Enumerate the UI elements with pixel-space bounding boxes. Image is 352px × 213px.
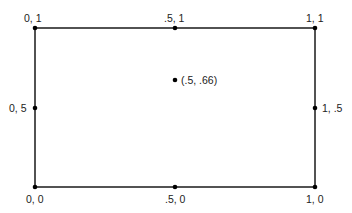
point-center [173, 78, 178, 83]
point-top-middle [173, 26, 178, 31]
point-top-left [33, 26, 38, 31]
unit-rectangle [35, 28, 315, 187]
label-top-left: 0, 1 [24, 12, 42, 24]
label-top-middle: .5, 1 [164, 12, 184, 24]
normalized-coordinate-diagram: 0, 1 .5, 1 1, 1 0, 5 (.5, .66) 1, .5 0, … [0, 0, 352, 213]
label-bottom-middle: .5, 0 [165, 193, 185, 205]
point-bottom-right [313, 185, 318, 190]
point-middle-left [33, 106, 38, 111]
point-top-right [313, 26, 318, 31]
label-middle-right: 1, .5 [322, 102, 342, 114]
label-top-right: 1, 1 [306, 12, 324, 24]
label-bottom-right: 1, 0 [306, 193, 324, 205]
label-middle-left: 0, 5 [9, 102, 27, 114]
label-bottom-left: 0, 0 [26, 193, 44, 205]
point-bottom-left [33, 185, 38, 190]
label-center: (.5, .66) [181, 74, 217, 86]
point-middle-right [313, 106, 318, 111]
point-markers [33, 26, 318, 190]
point-bottom-middle [173, 185, 178, 190]
diagram-canvas [0, 0, 352, 213]
